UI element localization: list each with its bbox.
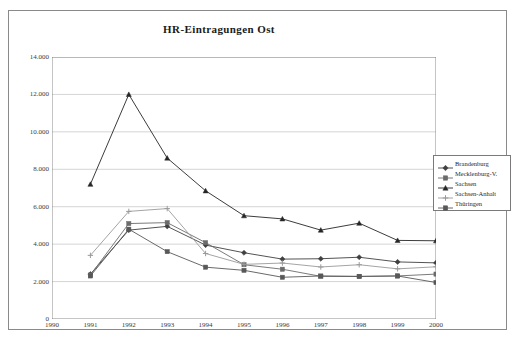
x-axis-label: 1998 <box>352 321 366 329</box>
data-point-plus-marker <box>357 262 362 267</box>
data-point-triangle-marker <box>357 221 362 226</box>
x-axis-tick-labels: 1990199119921993199419951996199719981999… <box>52 317 436 337</box>
x-axis-label: 1997 <box>314 321 328 329</box>
legend-item[interactable]: Mecklenburg-V. <box>437 169 508 179</box>
data-point-square-marker <box>434 272 436 276</box>
y-axis-label: 14.000 <box>30 53 49 61</box>
data-point-square-marker <box>443 206 447 210</box>
legend-item[interactable]: Sachsen <box>437 179 508 189</box>
data-point-square-marker <box>280 267 284 271</box>
data-point-plus-marker <box>433 264 436 269</box>
data-point-plus-marker <box>395 266 400 271</box>
x-axis-label: 1994 <box>199 321 213 329</box>
data-point-square-marker <box>280 275 284 279</box>
chart-title: HR-Eintragungen Ost <box>9 23 429 35</box>
data-point-square-marker <box>242 268 246 272</box>
legend-marker-triangle-icon <box>437 179 454 189</box>
data-point-square-marker <box>165 250 169 254</box>
legend-item[interactable]: Thüringen <box>437 199 508 209</box>
data-point-square-marker <box>88 274 92 278</box>
legend-marker-square-icon <box>437 169 454 179</box>
data-point-plus-marker <box>318 264 323 269</box>
chart-svg <box>52 57 436 319</box>
data-point-triangle-marker <box>88 182 93 187</box>
x-axis-label: 1992 <box>122 321 136 329</box>
data-point-triangle-marker <box>165 156 170 161</box>
data-point-square-marker <box>319 274 323 278</box>
legend-label: Sachsen <box>454 179 476 189</box>
chart-outer-frame: HR-Eintragungen Ost 02.0004.0006.0008.00… <box>8 10 507 330</box>
x-axis-label: 1995 <box>237 321 251 329</box>
data-point-square-marker <box>127 221 131 225</box>
data-point-square-marker <box>165 221 169 225</box>
data-point-diamond-marker <box>395 259 400 264</box>
data-point-square-marker <box>396 274 400 278</box>
series-line-sachsen <box>90 94 436 240</box>
legend-marker-plus-icon <box>437 189 454 199</box>
data-point-plus-marker <box>280 260 285 265</box>
y-axis-tick-labels: 02.0004.0006.0008.00010.00012.00014.000 <box>9 57 49 319</box>
x-axis-label: 1991 <box>83 321 97 329</box>
chart-legend: BrandenburgMecklenburg-V.SachsenSachsen-… <box>433 155 511 211</box>
legend-item[interactable]: Brandenburg <box>437 159 508 169</box>
data-point-square-marker <box>434 280 436 284</box>
x-axis-label: 2000 <box>429 321 443 329</box>
data-point-square-marker <box>357 274 361 278</box>
y-axis-label: 12.000 <box>30 90 49 98</box>
data-point-square-marker <box>204 265 208 269</box>
series-line-mecklenburg-v <box>90 223 436 277</box>
legend-label: Mecklenburg-V. <box>454 169 497 179</box>
y-axis-label: 10.000 <box>30 128 49 136</box>
legend-marker-diamond-icon <box>437 159 454 169</box>
y-axis-label: 4.000 <box>33 240 49 248</box>
legend-label: Thüringen <box>454 199 482 209</box>
legend-label: Sachsen-Anhalt <box>454 189 496 199</box>
legend-item[interactable]: Sachsen-Anhalt <box>437 189 508 199</box>
legend-label: Brandenburg <box>454 159 489 169</box>
x-axis-label: 1993 <box>160 321 174 329</box>
x-axis-label: 1999 <box>391 321 405 329</box>
y-axis-label: 2.000 <box>33 278 49 286</box>
x-axis-label: 1990 <box>45 321 59 329</box>
data-point-square-marker <box>127 227 131 231</box>
x-axis-label: 1996 <box>275 321 289 329</box>
data-point-square-marker <box>204 241 208 245</box>
y-axis-label: 8.000 <box>33 165 49 173</box>
y-axis-label: 6.000 <box>33 203 49 211</box>
legend-marker-square-icon <box>437 199 454 209</box>
plot-area <box>52 57 436 319</box>
data-point-diamond-marker <box>318 256 323 261</box>
data-point-diamond-marker <box>241 250 246 255</box>
data-point-diamond-marker <box>357 255 362 260</box>
